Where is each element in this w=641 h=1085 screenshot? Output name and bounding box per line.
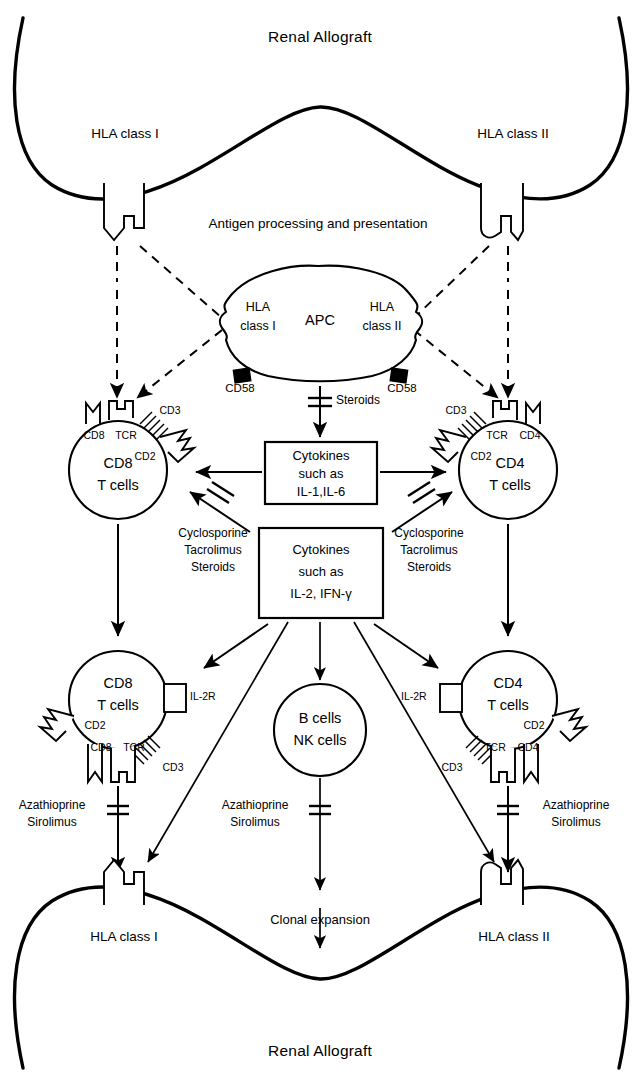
apc-label: APC (305, 312, 335, 330)
cd8-upper-name-line1: CD8 (103, 455, 132, 473)
cd8-upper-cd2-label: CD2 (134, 450, 155, 463)
cd4-upper-name-line2: T cells (489, 477, 531, 495)
cd8-upper-name-line2: T cells (97, 477, 139, 495)
apc-hla-class-ii-line2: class II (363, 319, 402, 334)
right-drug-steroids: Steroids (407, 560, 451, 575)
bnk-name-line2: NK cells (293, 732, 346, 750)
cd4-lower-name-line1: CD4 (493, 675, 522, 693)
hla-class-ii-label-top: HLA class II (477, 126, 548, 142)
cd8-to-graft-arrow (107, 786, 129, 872)
cd4-to-graft-arrow (497, 786, 519, 872)
top-graft-title: Renal Allograft (268, 28, 372, 47)
hla-class-ii-receptor-bottom (481, 860, 523, 905)
cd58-right-label: CD58 (387, 381, 416, 395)
cd8-lower-cd8-label: CD8 (90, 741, 111, 754)
renal-allograft-rejection-diagram: Renal Allograft HLA class I HLA class II… (0, 0, 641, 1085)
cytokines-upper-line3: IL-1,IL-6 (297, 484, 345, 500)
antigen-processing-label: Antigen processing and presentation (208, 216, 427, 232)
il2r-receptor-right (440, 684, 462, 712)
hla-class-i-label-top: HLA class I (91, 126, 159, 142)
right-drug-tacrolimus: Tacrolimus (400, 543, 457, 558)
cd8-lower-cd2-label: CD2 (84, 719, 105, 732)
cd8-lower-il2r-label: IL-2R (190, 690, 216, 703)
left-drug-cyclosporine: Cyclosporine (178, 526, 247, 541)
bnk-name-line1: B cells (299, 710, 342, 728)
cd8-lower-cd3-label: CD3 (162, 761, 183, 774)
aza-center-line1: Azathioprine (222, 798, 289, 813)
hla-class-ii-receptor-top (481, 183, 523, 240)
bottom-graft-title: Renal Allograft (268, 1042, 372, 1061)
apc-hla-class-i-line2: class I (240, 319, 275, 334)
cytokines-upper-line2: such as (299, 466, 344, 482)
cd58-left-label: CD58 (225, 381, 254, 395)
aza-left-line1: Azathioprine (19, 798, 86, 813)
aza-center-line2: Sirolimus (230, 815, 279, 830)
aza-left-line2: Sirolimus (27, 815, 76, 830)
cd4-upper-cd2-label: CD2 (470, 450, 491, 463)
cd8-lower-name-line2: T cells (97, 697, 139, 715)
cd4-receptor-glyph (526, 403, 540, 424)
hla-class-i-label-bottom: HLA class I (90, 929, 158, 945)
tcr-receptor-glyph (109, 401, 133, 420)
cd8-lower-name-line1: CD8 (103, 675, 132, 693)
bnk-to-clonal-arrow (309, 778, 331, 890)
cytokines-lower-line3: IL-2, IFN-γ (290, 586, 351, 602)
cd4-lower-cd4-label: CD4 (517, 741, 538, 754)
left-drug-tacrolimus: Tacrolimus (184, 543, 241, 558)
cd4-upper-cd3-label: CD3 (445, 404, 466, 417)
hla-class-ii-label-bottom: HLA class II (478, 929, 549, 945)
cytokines-lower-line1: Cytokines (292, 542, 349, 558)
cd4-lower-name-line2: T cells (487, 697, 529, 715)
aza-right-line2: Sirolimus (551, 815, 600, 830)
cd4-upper-tcr-label: TCR (486, 429, 508, 442)
left-drug-steroids: Steroids (191, 560, 235, 575)
cd8-upper-tcr-label: TCR (115, 429, 137, 442)
hla-class-i-receptor-top (104, 183, 144, 240)
tcr-receptor-glyph-right (493, 401, 517, 420)
hla-class-i-receptor-bottom (104, 860, 144, 905)
cd4-lower-cd2-label: CD2 (523, 719, 544, 732)
cd4-lower-il2r-label: IL-2R (401, 690, 427, 703)
cd8-receptor-glyph (86, 403, 100, 424)
cd4-upper-cd4-label: CD4 (519, 429, 540, 442)
cd4-upper-name-line1: CD4 (495, 455, 524, 473)
apc-hla-class-ii-line1: HLA (370, 300, 394, 315)
apc-hla-class-i-line1: HLA (246, 300, 270, 315)
apc-to-cytokines-arrow (308, 386, 332, 437)
cd8-upper-cd3-label: CD3 (159, 404, 180, 417)
cd4-to-cytokine-arrow (392, 482, 452, 532)
cytokines-upper-line1: Cytokines (292, 448, 349, 464)
b-nk-cell (274, 684, 366, 776)
steroids-apc-label: Steroids (336, 393, 380, 408)
cd4-lower-cd3-label: CD3 (441, 761, 462, 774)
right-drug-cyclosporine: Cyclosporine (394, 526, 463, 541)
cd8-to-cytokine-arrow (190, 482, 250, 532)
cd4-lower-tcr-label: TCR (484, 741, 506, 754)
cytokines-lower-line2: such as (299, 564, 344, 580)
clonal-expansion-label: Clonal expansion (270, 912, 370, 928)
cd2-flag-lower-right (552, 709, 586, 741)
cd8-upper-cd8-label: CD8 (83, 429, 104, 442)
cd8-lower-tcr-label: TCR (123, 741, 145, 754)
cd2-flag-lower-left (40, 709, 74, 741)
il2r-receptor-left (164, 684, 186, 712)
aza-right-line1: Azathioprine (543, 798, 610, 813)
